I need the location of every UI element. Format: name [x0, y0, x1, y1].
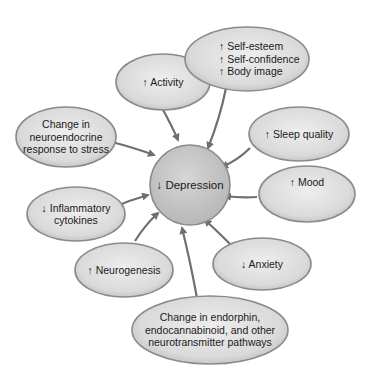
- arrow-self: [208, 88, 226, 148]
- label-inflammatory: ↓ Inflammatory cytokines: [27, 198, 125, 230]
- arrow-neurogenesis: [135, 213, 158, 241]
- label-neurogenesis: ↑ Neurogenesis: [75, 257, 173, 283]
- arrow-activity: [162, 108, 178, 140]
- label-depression: ↓ Depression: [150, 172, 230, 198]
- label-neuroendocrine: Change in neuroendocrine response to str…: [16, 112, 116, 162]
- label-endorphin: Change in endorphin, endocannabinoid, an…: [132, 306, 288, 354]
- label-sleep: ↑ Sleep quality: [249, 121, 349, 147]
- label-anxiety: ↓ Anxiety: [213, 251, 311, 277]
- label-mood: ↑ Mood: [259, 166, 355, 194]
- arrow-sleep: [222, 148, 250, 167]
- arrow-anxiety: [205, 220, 230, 244]
- arrow-neuroendocrine: [112, 142, 154, 155]
- arrow-endorphin: [182, 228, 197, 298]
- label-self: ↑ Self-esteem ↑ Self-confidence ↑ Body i…: [185, 30, 309, 88]
